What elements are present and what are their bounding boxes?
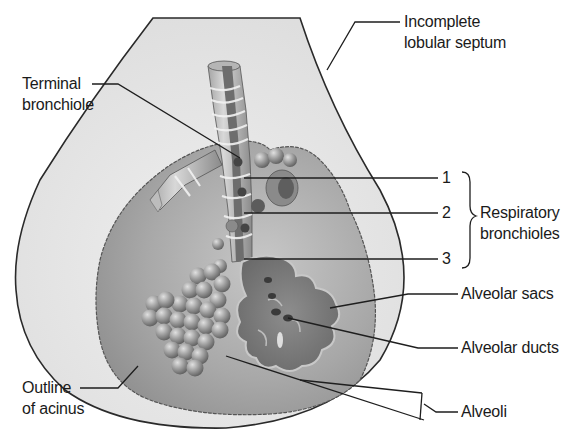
- label-respiratory-bronchioles-line2: bronchioles: [480, 224, 560, 244]
- label-respiratory-3: 3: [442, 250, 451, 268]
- label-alveoli: Alveoli: [461, 402, 507, 422]
- label-respiratory-1: 1: [442, 169, 451, 187]
- label-terminal-bronchiole-line1: Terminal: [22, 74, 81, 94]
- label-respiratory-2: 2: [442, 204, 451, 222]
- label-alveolar-sacs: Alveolar sacs: [461, 284, 554, 304]
- respiratory-brace: [462, 172, 476, 268]
- label-incomplete-septum-line2: lobular septum: [404, 33, 506, 53]
- label-outline-acinus-line1: Outline: [22, 378, 71, 398]
- acinus-diagram: Incomplete lobular septum Terminal bronc…: [0, 0, 584, 439]
- label-terminal-bronchiole-line2: bronchiole: [22, 95, 94, 115]
- label-respiratory-bronchioles-line1: Respiratory: [480, 203, 560, 223]
- label-incomplete-septum-line1: Incomplete: [404, 12, 480, 32]
- label-outline-acinus-line2: of acinus: [22, 399, 84, 419]
- label-alveolar-ducts: Alveolar ducts: [461, 338, 559, 358]
